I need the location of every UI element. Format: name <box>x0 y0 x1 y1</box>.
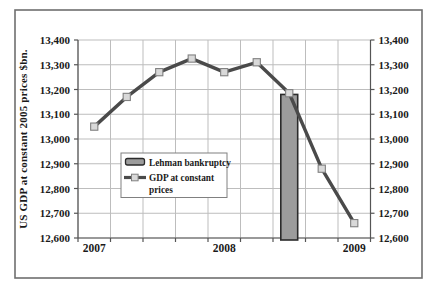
data-point-marker <box>286 90 293 97</box>
y-tick-label-left: 13,100 <box>40 108 71 120</box>
y-tick-label-left: 12,700 <box>40 207 71 219</box>
y-tick-label-left: 12,800 <box>40 183 71 195</box>
data-point-marker <box>253 59 260 66</box>
legend-label-gdp-line2: prices <box>149 185 173 195</box>
y-tick-label-right: 12,600 <box>379 232 410 244</box>
lehman-bankruptcy-bar <box>281 94 298 240</box>
data-point-marker <box>156 69 163 76</box>
y-tick-label-left: 13,000 <box>40 133 71 145</box>
data-point-marker <box>91 123 98 130</box>
y-tick-label-left: 13,300 <box>40 59 71 71</box>
data-point-marker <box>221 69 228 76</box>
y-tick-label-right: 12,900 <box>379 158 410 170</box>
legend: Lehman bankruptcyGDP at constantprices <box>121 153 231 198</box>
legend-marker-swatch <box>132 174 139 181</box>
y-tick-label-right: 12,800 <box>379 183 410 195</box>
y-tick-label-right: 13,000 <box>379 133 410 145</box>
y-tick-label-right: 13,400 <box>379 34 410 46</box>
x-axis-year-label: 2008 <box>213 242 236 254</box>
legend-label-gdp-line1: GDP at constant <box>149 173 215 183</box>
y-tick-label-left: 12,900 <box>40 158 71 170</box>
y-tick-label-right: 12,700 <box>379 207 410 219</box>
y-tick-label-right: 13,100 <box>379 108 410 120</box>
data-point-marker <box>318 165 325 172</box>
x-axis-year-label: 2009 <box>343 242 366 254</box>
data-point-marker <box>188 55 195 62</box>
y-tick-label-left: 12,600 <box>40 232 71 244</box>
y-tick-label-right: 13,300 <box>379 59 410 71</box>
y-tick-label-right: 13,200 <box>379 84 410 96</box>
gdp-chart-figure: 13,40013,40013,30013,30013,20013,20013,1… <box>0 0 432 288</box>
x-axis-year-label: 2007 <box>83 242 106 254</box>
y-tick-label-left: 13,400 <box>40 34 71 46</box>
legend-label-lehman: Lehman bankruptcy <box>149 158 231 168</box>
data-point-marker <box>351 220 358 227</box>
chart-svg: 13,40013,40013,30013,30013,20013,20013,1… <box>0 0 432 288</box>
data-point-marker <box>123 93 130 100</box>
y-axis-title: US GDP at constant 2005 prices $bn. <box>17 49 29 229</box>
legend-bar-swatch <box>126 159 145 166</box>
y-tick-label-left: 13,200 <box>40 84 71 96</box>
